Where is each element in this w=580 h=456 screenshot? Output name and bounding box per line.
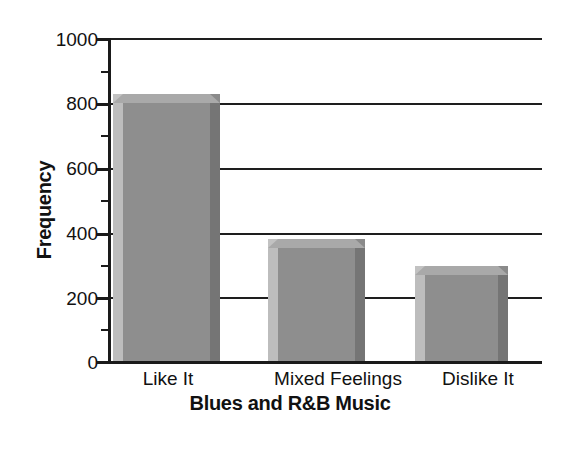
- bar-shadow: [507, 280, 514, 361]
- x-tick-label-mixed-feelings: Mixed Feelings: [248, 368, 428, 390]
- x-axis-line: [108, 361, 542, 364]
- bar-left-face: [415, 275, 425, 361]
- y-tick-label-600: 600: [38, 159, 98, 178]
- bar-top-face: [415, 266, 508, 275]
- bar-dislike-it: [415, 266, 508, 361]
- plot-area: [108, 38, 542, 364]
- y-tick-label-400: 400: [38, 224, 98, 243]
- bar-top-bevel-right: [210, 94, 220, 103]
- bar-top-face: [268, 239, 365, 248]
- bar-front-face: [123, 103, 210, 361]
- y-axis-tick-labels: 1000 800 600 400 200 0: [34, 0, 98, 456]
- bar-top-bevel-left: [113, 94, 123, 103]
- x-tick-label-like-it: Like It: [108, 368, 228, 390]
- bar-front-face: [425, 275, 498, 361]
- bar-right-face: [355, 248, 365, 361]
- bar-top-face: [113, 94, 220, 103]
- y-tick-label-800: 800: [38, 94, 98, 113]
- bar-top-bevel-right: [355, 239, 365, 248]
- bar-right-face: [498, 275, 508, 361]
- bar-like-it: [113, 94, 220, 361]
- bar-left-face: [113, 103, 123, 361]
- bar-mixed-feelings: [268, 239, 365, 361]
- bar-right-face: [210, 103, 220, 361]
- gridline-1000: [108, 38, 542, 40]
- x-tick-label-dislike-it: Dislike It: [408, 368, 548, 390]
- bar-front-face: [278, 248, 355, 361]
- y-tick-label-1000: 1000: [38, 30, 98, 49]
- bar-top-bevel-left: [268, 239, 278, 248]
- bar-left-face: [268, 248, 278, 361]
- bar-top-bevel-left: [415, 266, 425, 275]
- chart-page: Frequency 1000 800 600 400 200 0: [0, 0, 580, 456]
- y-axis-line: [108, 38, 111, 364]
- bar-shadow: [364, 253, 371, 361]
- y-tick-label-0: 0: [38, 353, 98, 372]
- bar-top-bevel-right: [498, 266, 508, 275]
- y-tick-label-200: 200: [38, 289, 98, 308]
- x-axis-title: Blues and R&B Music: [0, 392, 580, 415]
